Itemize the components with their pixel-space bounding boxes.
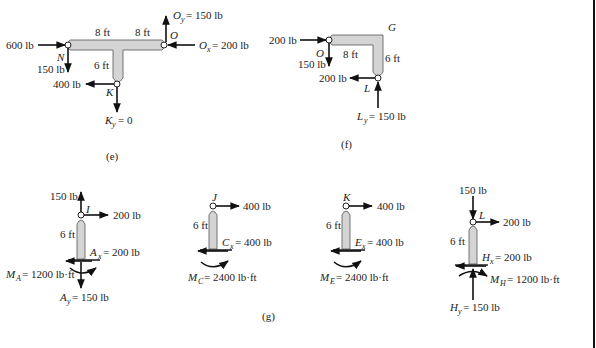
dim-top: 8 ft — [343, 48, 358, 60]
column-e — [342, 211, 350, 249]
caption-f: (f) — [341, 138, 352, 151]
ly-value: = 150 lb — [369, 110, 406, 122]
label-k-g: K — [342, 191, 351, 203]
caption-g: (g) — [262, 310, 275, 323]
pin-n — [65, 42, 71, 48]
label-f-200: 200 lb — [269, 34, 297, 46]
dim-stem: 6 ft — [94, 59, 109, 71]
label-l-200: 200 lb — [319, 72, 347, 84]
moment-arc-c — [201, 261, 228, 267]
dim-side: 6 ft — [385, 52, 400, 64]
label-j: J — [212, 191, 218, 203]
label-i-150: 150 lb — [50, 190, 78, 202]
pin-o-f — [326, 37, 332, 43]
oy-value: = 150 lb — [186, 9, 223, 21]
label-o: O — [170, 29, 178, 41]
ax-sub: x — [97, 252, 102, 261]
mh-sub: H — [499, 279, 507, 288]
pin-k-g — [343, 203, 349, 209]
label-k-400: 400 lb — [53, 78, 81, 90]
label-l-150-g: 150 lb — [459, 184, 487, 196]
ly-sub: y — [363, 116, 368, 125]
pin-i — [78, 212, 84, 218]
cx-sub: x — [229, 242, 234, 251]
me-sub: E — [329, 277, 335, 286]
ox-value: = 200 lb — [212, 39, 249, 51]
figure-g-column-a: I 150 lb 200 lb 6 ft A x = 200 lb M A = … — [5, 190, 141, 306]
free-body-diagrams: 8 ft 8 ft 6 ft 600 lb N 150 lb 400 lb K … — [0, 0, 596, 348]
label-l-200-g: 200 lb — [503, 216, 531, 228]
me-value: = 2400 lb·ft — [336, 271, 389, 283]
page-edge-rule — [593, 0, 595, 348]
ma-value: = 1200 lb·ft — [22, 268, 75, 280]
ax-sym: A — [89, 246, 97, 258]
label-j-400: 400 lb — [243, 200, 271, 212]
label-l: L — [363, 82, 370, 94]
pin-o — [161, 42, 167, 48]
ay-sym: A — [59, 291, 67, 303]
moment-arc-e — [334, 261, 361, 267]
hy-value: = 150 lb — [463, 301, 500, 313]
label-600: 600 lb — [6, 39, 34, 51]
ly-sym: L — [356, 110, 363, 122]
label-g: G — [388, 21, 396, 33]
hy-sub: y — [457, 307, 462, 316]
ay-value: = 150 lb — [72, 291, 109, 303]
figure-f: G 8 ft 6 ft 200 lb O 150 lb 200 lb L L y… — [269, 21, 406, 151]
height-a: 6 ft — [60, 228, 75, 240]
pin-k — [114, 81, 120, 87]
mc-sym: M — [187, 271, 198, 283]
ex-sym: E — [354, 236, 362, 248]
label-i: I — [85, 203, 91, 215]
ky-value: = 0 — [118, 114, 133, 126]
pin-l — [375, 75, 381, 81]
hx-value: = 200 lb — [495, 251, 532, 263]
figure-g-column-c: J 400 lb 6 ft C x = 400 lb M C = 2400 lb… — [187, 191, 272, 286]
ox-sub: x — [206, 45, 211, 54]
label-i-200: 200 lb — [113, 209, 141, 221]
hx-sub: x — [489, 257, 494, 266]
ex-sub: x — [361, 242, 366, 251]
figure-e: 8 ft 8 ft 6 ft 600 lb N 150 lb 400 lb K … — [6, 9, 249, 163]
dim-right: 8 ft — [135, 26, 150, 38]
mh-value: = 1200 lb·ft — [507, 273, 560, 285]
ex-value: = 400 lb — [367, 236, 404, 248]
height-e: 6 ft — [326, 219, 341, 231]
column-c — [209, 211, 217, 249]
caption-e: (e) — [106, 150, 119, 163]
ax-value: = 200 lb — [103, 246, 140, 258]
figure-g-column-h: L 150 lb 200 lb 6 ft H x = 200 lb M H = … — [449, 184, 560, 316]
column-a — [77, 220, 85, 259]
height-c: 6 ft — [193, 219, 208, 231]
label-k: K — [105, 86, 114, 98]
cx-sym: C — [222, 236, 230, 248]
pin-l-g — [470, 219, 476, 225]
pin-j — [210, 203, 216, 209]
ky-sub: y — [111, 120, 116, 129]
t-member — [67, 40, 165, 82]
figure-g-column-e: K 400 lb 6 ft E x = 400 lb M E = 2400 lb… — [319, 191, 405, 286]
me-sym: M — [319, 271, 330, 283]
label-k-400-g: 400 lb — [377, 200, 405, 212]
ay-sub: y — [66, 297, 71, 306]
label-l-g: L — [478, 209, 485, 221]
ox-sym: O — [199, 39, 207, 51]
dim-left: 8 ft — [95, 26, 110, 38]
oy-sym: O — [173, 9, 181, 21]
column-h — [469, 226, 477, 264]
label-n-150: 150 lb — [37, 63, 65, 75]
mh-sym: M — [489, 273, 500, 285]
ma-sym: M — [5, 268, 16, 280]
label-f-150: 150 lb — [298, 58, 326, 70]
oy-sub: y — [180, 15, 185, 24]
mc-value: = 2400 lb·ft — [204, 271, 257, 283]
label-n: N — [56, 51, 65, 63]
cx-value: = 400 lb — [235, 236, 272, 248]
height-h: 6 ft — [450, 235, 465, 247]
ma-sub: A — [15, 274, 21, 283]
